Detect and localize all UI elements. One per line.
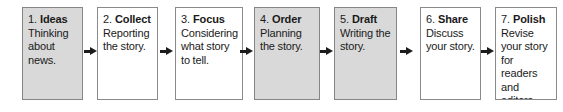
arrow-1-to-2-icon [84, 47, 97, 56]
step-number-1: 1. [28, 13, 37, 25]
step-number-6: 6. [426, 13, 435, 25]
arrow-2-to-3-icon [160, 47, 173, 56]
step-word-2: Collect [115, 13, 151, 25]
arrow-4-to-5-icon [320, 47, 333, 56]
step-title-6: 6. Share [426, 13, 476, 27]
step-description-2: Reporting the story. [103, 27, 153, 54]
step-number-2: 2. [103, 13, 112, 25]
step-description-6: Discuss your story. [426, 27, 476, 54]
step-word-4: Order [272, 13, 301, 25]
step-number-3: 3. [181, 13, 190, 25]
arrow-head [406, 47, 413, 55]
step-description-1: Thinking about news. [28, 27, 78, 68]
arrow-3-to-4-icon [240, 47, 253, 56]
step-word-7: Polish [513, 13, 545, 25]
step-word-3: Focus [193, 13, 225, 25]
step-description-5: Writing the story. [340, 27, 392, 54]
step-title-2: 2. Collect [103, 13, 153, 27]
step-title-5: 5. Draft [340, 13, 392, 27]
arrow-head [487, 47, 494, 55]
step-box-2-collect[interactable]: 2. Collect Reporting the story. [97, 7, 158, 100]
step-description-4: Planning the story. [260, 27, 315, 54]
step-title-1: 1. Ideas [28, 13, 78, 27]
arrow-head [246, 47, 253, 55]
step-box-1-ideas[interactable]: 1. Ideas Thinking about news. [22, 7, 83, 100]
step-box-4-order[interactable]: 4. Order Planning the story. [254, 7, 320, 100]
step-box-7-polish[interactable]: 7. Polish Revise your story for readers … [495, 7, 557, 100]
step-word-6: Share [438, 13, 468, 25]
step-word-1: Ideas [40, 13, 68, 25]
arrow-5-to-6-icon [400, 47, 413, 56]
step-title-3: 3. Focus [181, 13, 238, 27]
step-word-5: Draft [352, 13, 377, 25]
step-number-7: 7. [501, 13, 510, 25]
arrow-head [166, 47, 173, 55]
step-box-5-draft[interactable]: 5. Draft Writing the story. [334, 7, 397, 100]
process-flow-diagram: 1. Ideas Thinking about news. 2. Collect… [0, 0, 563, 112]
step-number-5: 5. [340, 13, 349, 25]
step-description-3: Considering what story to tell. [181, 27, 238, 68]
step-number-4: 4. [260, 13, 269, 25]
arrow-6-to-7-icon [481, 47, 494, 56]
step-description-7: Revise your story for readers and editor… [501, 27, 552, 101]
step-box-3-focus[interactable]: 3. Focus Considering what story to tell. [175, 7, 243, 100]
step-title-4: 4. Order [260, 13, 315, 27]
arrow-head [326, 47, 333, 55]
step-title-7: 7. Polish [501, 13, 552, 27]
step-box-6-share[interactable]: 6. Share Discuss your story. [420, 7, 481, 100]
arrow-head [90, 47, 97, 55]
